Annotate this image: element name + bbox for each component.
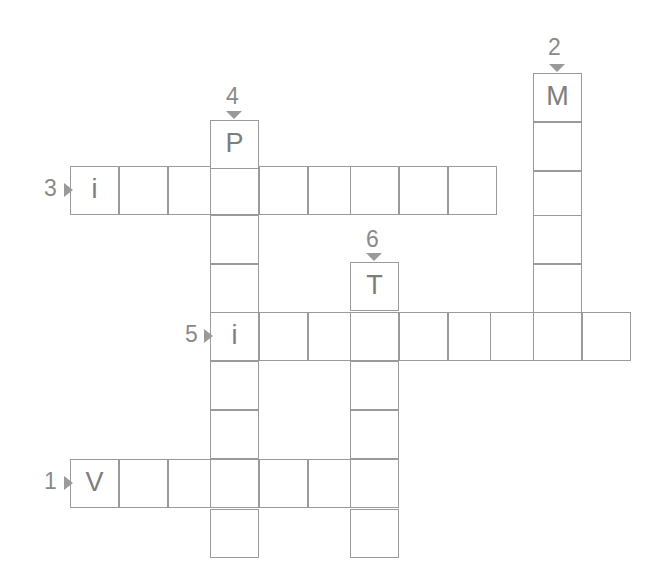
crossword-cell-filled[interactable]: i (70, 166, 119, 215)
crossword-cell-filled[interactable]: T (350, 262, 399, 311)
arrow-down-icon (549, 64, 565, 72)
crossword-cell-filled[interactable]: i (210, 312, 259, 361)
crossword-cell-empty[interactable] (399, 166, 448, 215)
crossword-cell-empty[interactable] (350, 410, 399, 459)
crossword-cell-empty[interactable] (259, 459, 308, 508)
crossword-cell-empty[interactable] (210, 361, 259, 410)
crossword-cell-empty[interactable] (350, 509, 399, 558)
cell-letter: P (211, 121, 258, 168)
crossword-cell-empty[interactable] (259, 312, 308, 361)
crossword-cell-empty[interactable] (350, 459, 399, 508)
cell-letter: T (351, 263, 398, 310)
clue-number: 3 (44, 177, 57, 200)
crossword-cell-empty[interactable] (448, 166, 497, 215)
clue-number: 6 (366, 228, 379, 251)
cell-letter: i (71, 167, 118, 214)
crossword-cell-empty[interactable] (210, 459, 259, 508)
crossword-cell-empty[interactable] (210, 215, 259, 264)
crossword-cell-empty[interactable] (533, 312, 582, 361)
crossword-cell-empty[interactable] (533, 122, 582, 171)
cell-letter: M (534, 74, 581, 121)
crossword-cell-empty[interactable] (582, 312, 631, 361)
clue-number: 2 (548, 36, 561, 59)
cell-letter: V (71, 460, 118, 507)
clue-number: 5 (185, 323, 198, 346)
crossword-cell-empty[interactable] (399, 312, 448, 361)
crossword-cell-filled[interactable]: V (70, 459, 119, 508)
crossword-cell-empty[interactable] (533, 264, 582, 313)
crossword-cell-empty[interactable] (119, 459, 168, 508)
arrow-right-icon (64, 183, 73, 197)
clue-number: 1 (44, 470, 57, 493)
arrow-down-icon (366, 253, 382, 261)
crossword-cell-empty[interactable] (533, 215, 582, 264)
crossword-cell-empty[interactable] (350, 361, 399, 410)
crossword-cell-filled[interactable]: P (210, 120, 259, 169)
cell-letter: i (211, 313, 258, 360)
arrow-right-icon (64, 476, 73, 490)
crossword-cell-filled[interactable]: M (533, 73, 582, 122)
crossword-cell-empty[interactable] (350, 312, 399, 361)
arrow-right-icon (204, 329, 213, 343)
crossword-cell-empty[interactable] (259, 166, 308, 215)
arrow-down-icon (226, 111, 242, 119)
crossword-cell-empty[interactable] (210, 410, 259, 459)
crossword-cell-empty[interactable] (490, 312, 539, 361)
crossword-cell-empty[interactable] (350, 166, 399, 215)
clue-number: 4 (226, 85, 239, 108)
crossword-cell-empty[interactable] (210, 509, 259, 558)
crossword-cell-empty[interactable] (210, 166, 259, 215)
crossword-puzzle: iiVMPT123456 (0, 0, 661, 580)
crossword-cell-empty[interactable] (119, 166, 168, 215)
crossword-cell-empty[interactable] (533, 171, 582, 220)
crossword-cell-empty[interactable] (210, 264, 259, 313)
